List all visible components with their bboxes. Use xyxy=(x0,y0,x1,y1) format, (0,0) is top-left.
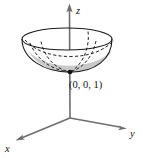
paraboloid-surface xyxy=(22,28,114,72)
paraboloid-diagram-canvas: z y x (0, 0, 1) xyxy=(0,0,143,158)
y-axis-label: y xyxy=(129,128,135,139)
paraboloid-figure: z y x (0, 0, 1) xyxy=(0,0,143,158)
y-axis-line xyxy=(70,118,121,127)
z-axis-label: z xyxy=(75,5,80,16)
vertex-point-label: (0, 0, 1) xyxy=(69,79,103,91)
vertex-point-marker xyxy=(68,70,73,75)
rim-ellipse-back-arc xyxy=(22,28,112,39)
x-axis-line xyxy=(22,118,70,138)
x-axis-label: x xyxy=(4,143,10,154)
